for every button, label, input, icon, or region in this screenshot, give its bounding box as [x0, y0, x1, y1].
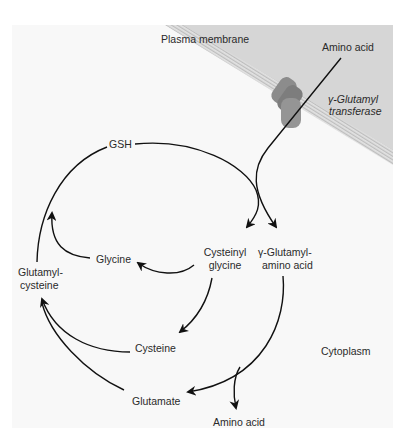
amino-acid-extracellular-label: Amino acid	[322, 41, 374, 53]
cysteinyl-glycine-label-line2: glycine	[200, 259, 250, 271]
glutamyl-cysteine-label-line1: Glutamyl-	[18, 266, 63, 278]
enzyme-label-line2: transferase	[329, 105, 382, 117]
cytoplasm-label: Cytoplasm	[321, 345, 371, 357]
glutamate-label: Glutamate	[132, 395, 180, 407]
glutamyl-amino-acid-label-line1: γ-Glutamyl-	[258, 246, 312, 258]
enzyme-label-line1: γ-Glutamyl	[328, 93, 378, 105]
amino-acid-cytoplasm-label: Amino acid	[213, 416, 265, 428]
plasma-membrane-label: Plasma membrane	[161, 33, 249, 45]
gamma-glutamyl-cycle-diagram	[0, 0, 413, 444]
glycine-label: Glycine	[96, 253, 131, 265]
cysteinyl-glycine-label-line1: Cysteinyl	[200, 246, 250, 258]
glutamyl-cysteine-label-line2: cysteine	[20, 279, 59, 291]
glutamyl-amino-acid-label-line2: amino acid	[262, 259, 313, 271]
gsh-label: GSH	[109, 138, 132, 150]
cysteine-label: Cysteine	[135, 342, 176, 354]
